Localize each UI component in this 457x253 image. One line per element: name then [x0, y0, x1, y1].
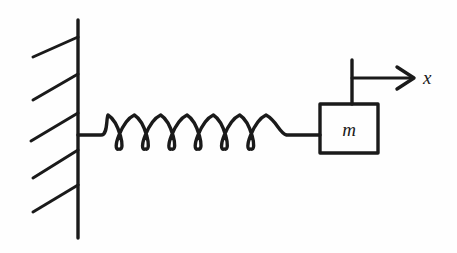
- physics-diagram-figure: m x: [0, 0, 457, 253]
- diagram-canvas: m x: [0, 0, 457, 253]
- axis-label: x: [422, 67, 432, 88]
- mass-label: m: [342, 119, 356, 140]
